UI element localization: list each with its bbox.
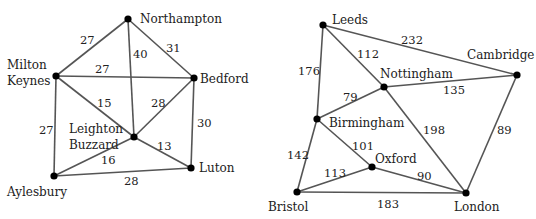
- weight-label: 27: [80, 33, 95, 47]
- label-nottingham: Nottingham: [380, 67, 454, 81]
- weight-label: 142: [287, 148, 309, 162]
- label-bristol: Bristol: [268, 200, 309, 214]
- weight-label: 183: [377, 197, 399, 211]
- label-luton: Luton: [199, 161, 235, 175]
- label-birmingham: Birmingham: [329, 116, 405, 130]
- node-milton-keynes: [52, 72, 59, 79]
- weight-label: 90: [417, 169, 432, 183]
- edge-bristol-london: [297, 192, 466, 193]
- edge-milton-keynes-northampton: [56, 19, 128, 76]
- edge-milton-keynes-bedford: [56, 76, 194, 78]
- label-cambridge: Cambridge: [467, 48, 534, 62]
- label-leighton-buzzard-line1: Leighton: [69, 122, 123, 136]
- weight-label: 27: [39, 123, 54, 137]
- node-bristol: [293, 188, 300, 195]
- weight-label: 15: [97, 96, 112, 110]
- node-nottingham: [380, 83, 387, 90]
- label-london: London: [454, 200, 500, 214]
- label-leighton-buzzard-line2: Buzzard: [69, 138, 119, 152]
- edge-northampton-leighton-buzzard: [128, 19, 134, 137]
- edge-bedford-luton: [191, 78, 194, 168]
- label-milton-keynes-line2: Keynes: [7, 74, 51, 88]
- edge-milton-keynes-aylesbury: [54, 76, 56, 176]
- weight-label: 101: [352, 139, 374, 153]
- node-luton: [187, 164, 194, 171]
- weight-label: 28: [124, 174, 139, 188]
- weight-label: 31: [166, 41, 181, 55]
- weight-label: 13: [157, 139, 172, 153]
- weight-label: 89: [497, 123, 512, 137]
- edge-aylesbury-luton: [54, 168, 191, 176]
- weight-label: 79: [343, 90, 358, 104]
- node-northampton: [124, 15, 131, 22]
- weight-label: 135: [443, 83, 465, 97]
- label-aylesbury: Aylesbury: [6, 185, 67, 199]
- weight-label: 40: [133, 47, 148, 61]
- label-milton-keynes-line1: Milton: [7, 58, 47, 72]
- weight-label: 27: [95, 62, 110, 76]
- weight-label: 113: [324, 166, 346, 180]
- label-oxford: Oxford: [375, 152, 417, 166]
- node-cambridge: [513, 71, 520, 78]
- weight-label: 28: [151, 96, 166, 110]
- node-aylesbury: [50, 172, 57, 179]
- node-bedford: [190, 74, 197, 81]
- weight-label: 232: [401, 33, 423, 47]
- weight-label: 30: [197, 116, 212, 130]
- weight-label: 176: [298, 64, 320, 78]
- label-northampton: Northampton: [140, 12, 222, 26]
- left-graph: 27 40 31 27 15 28 27 30 13 16 28 Northam…: [6, 12, 249, 199]
- right-graph: 232 112 176 135 79 198 89 101 142 113 90…: [268, 13, 534, 214]
- weight-label: 112: [357, 47, 379, 61]
- weight-label: 16: [101, 153, 116, 167]
- node-leeds: [319, 21, 326, 28]
- weight-label: 198: [423, 123, 445, 137]
- route-network-diagrams: 27 40 31 27 15 28 27 30 13 16 28 Northam…: [0, 0, 536, 219]
- node-london: [462, 189, 469, 196]
- label-bedford: Bedford: [200, 72, 249, 86]
- node-leighton-buzzard: [130, 133, 137, 140]
- node-birmingham: [313, 115, 320, 122]
- label-leeds: Leeds: [332, 13, 368, 27]
